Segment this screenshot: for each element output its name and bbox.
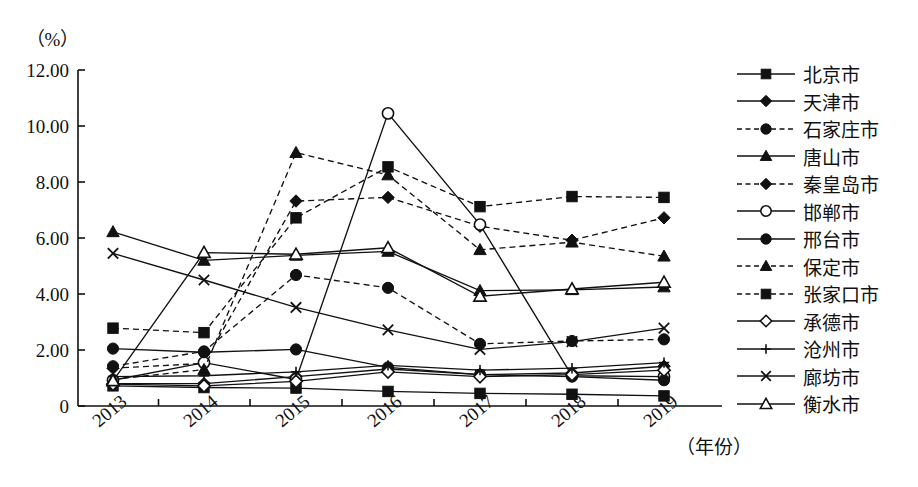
marker-square-filled (199, 327, 209, 337)
legend-item-label: 廊坊市 (803, 363, 860, 390)
legend-item[interactable]: 廊坊市 (735, 363, 915, 391)
marker-diamond-filled (760, 178, 771, 189)
marker-diamond-filled (290, 195, 302, 207)
legend-item[interactable]: 承德市 (735, 308, 915, 336)
marker-square-filled (659, 192, 669, 202)
legend-marker-sample (735, 91, 797, 111)
legend-item[interactable]: 张家口市 (735, 280, 915, 308)
marker-square-filled (291, 213, 301, 223)
y-tick-label: 10.00 (26, 116, 69, 137)
legend-marker-sample (735, 229, 797, 249)
legend-marker-sample (735, 311, 797, 331)
marker-square-filled (567, 191, 577, 201)
legend-item[interactable]: 沧州市 (735, 335, 915, 363)
series-line (108, 248, 669, 354)
legend-marker-sample (735, 174, 797, 194)
y-tick-label: 0 (60, 396, 70, 417)
marker-triangle-filled (107, 226, 119, 237)
legend-item[interactable]: 唐山市 (735, 143, 915, 171)
marker-diamond-filled (760, 96, 771, 107)
legend-marker-sample (735, 394, 797, 414)
marker-circle-filled (198, 347, 209, 358)
marker-circle-filled (658, 334, 669, 345)
marker-square-filled (383, 162, 393, 172)
marker-triangle-open (382, 242, 394, 253)
legend-item-label: 北京市 (803, 60, 860, 87)
series-line (107, 146, 670, 384)
legend-item-label: 衡水市 (803, 390, 860, 417)
marker-circle-filled (107, 343, 118, 354)
legend-item[interactable]: 秦皇岛市 (735, 170, 915, 198)
marker-circle-filled (290, 344, 301, 355)
marker-cross (383, 325, 393, 335)
y-axis: 02.004.006.008.0010.0012.00 (26, 60, 85, 417)
legend-marker-sample (735, 366, 797, 386)
legend-item-label: 秦皇岛市 (803, 170, 879, 197)
marker-triangle-filled (760, 261, 771, 271)
marker-circle-filled (290, 269, 301, 280)
legend-item[interactable]: 天津市 (735, 88, 915, 116)
marker-square-filled (761, 289, 771, 299)
y-tick-label: 2.00 (36, 340, 69, 361)
legend-item[interactable]: 保定市 (735, 253, 915, 281)
marker-square-filled (475, 388, 485, 398)
chart-legend: 北京市天津市石家庄市唐山市秦皇岛市邯郸市邢台市保定市张家口市承德市沧州市廊坊市衡… (735, 60, 915, 418)
legend-marker-sample (735, 64, 797, 84)
legend-item-label: 石家庄市 (803, 115, 879, 142)
x-tick-label: 2013 (88, 391, 131, 432)
legend-marker-sample (735, 284, 797, 304)
marker-diamond-filled (382, 191, 394, 203)
marker-circle-open (382, 108, 393, 119)
marker-square-filled (761, 69, 771, 79)
legend-marker-sample (735, 119, 797, 139)
legend-item[interactable]: 邢台市 (735, 225, 915, 253)
marker-square-filled (108, 323, 118, 333)
y-tick-label: 8.00 (36, 172, 69, 193)
legend-item-label: 保定市 (803, 253, 860, 280)
x-tick-label: 2014 (179, 390, 222, 431)
marker-triangle-open (198, 246, 210, 257)
legend-item-label: 沧州市 (803, 335, 860, 362)
marker-cross (108, 248, 118, 258)
marker-cross (291, 302, 301, 312)
marker-circle-open (761, 206, 771, 216)
marker-diamond-filled (658, 212, 670, 224)
marker-circle-filled (761, 234, 771, 244)
legend-item-label: 唐山市 (803, 143, 860, 170)
legend-item-label: 承德市 (803, 308, 860, 335)
marker-cross (199, 275, 209, 285)
legend-marker-sample (735, 146, 797, 166)
y-tick-label: 6.00 (36, 228, 69, 249)
legend-item-label: 张家口市 (803, 280, 879, 307)
marker-circle-filled (761, 124, 771, 134)
marker-triangle-open (658, 276, 670, 287)
y-tick-label: 4.00 (36, 284, 69, 305)
legend-item-label: 天津市 (803, 88, 860, 115)
legend-item[interactable]: 衡水市 (735, 390, 915, 418)
legend-marker-sample (735, 256, 797, 276)
marker-square-filled (383, 386, 393, 396)
legend-item-label: 邢台市 (803, 225, 860, 252)
y-tick-label: 12.00 (26, 60, 69, 81)
chart-container: （%） （年份） 02.004.006.008.0010.0012.00 201… (0, 0, 918, 487)
data-series-group (107, 108, 670, 401)
marker-circle-filled (474, 338, 485, 349)
legend-item[interactable]: 邯郸市 (735, 198, 915, 226)
marker-square-filled (567, 389, 577, 399)
marker-circle-open (474, 219, 485, 230)
marker-square-filled (659, 391, 669, 401)
marker-circle-filled (382, 282, 393, 293)
x-tick-label: 2015 (271, 391, 314, 432)
legend-marker-sample (735, 339, 797, 359)
marker-diamond-open (760, 316, 771, 327)
legend-item[interactable]: 石家庄市 (735, 115, 915, 143)
marker-plus (761, 344, 771, 354)
legend-item-label: 邯郸市 (803, 198, 860, 225)
legend-item[interactable]: 北京市 (735, 60, 915, 88)
series-line (107, 269, 669, 371)
x-axis: 2013201420152016201720182019 (78, 390, 722, 431)
marker-triangle-filled (290, 146, 302, 157)
marker-square-filled (475, 201, 485, 211)
legend-marker-sample (735, 201, 797, 221)
